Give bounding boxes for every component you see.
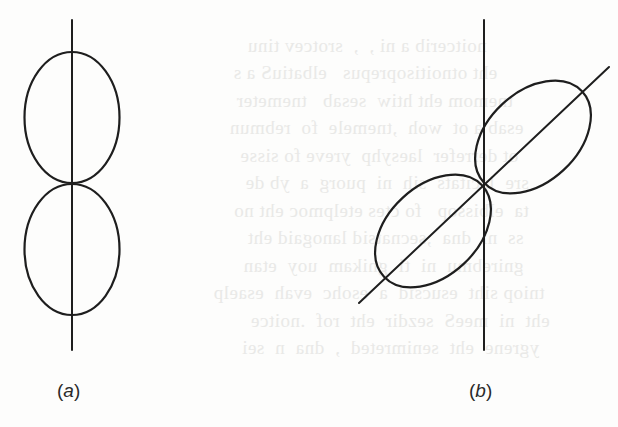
panel-a	[25, 20, 120, 350]
panel-b-caption: (b)	[469, 380, 492, 402]
figure-page: noitcerib a ni , , srotcev tinu eht otno…	[0, 0, 618, 427]
polar-lobe-diagram	[0, 0, 618, 427]
panel-a-caption: (a)	[57, 380, 80, 402]
panel-b-caption-text: (b)	[469, 380, 492, 401]
panel-a-caption-text: (a)	[57, 380, 80, 401]
panel-b	[353, 20, 612, 350]
